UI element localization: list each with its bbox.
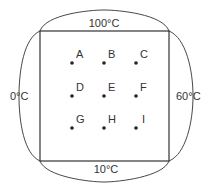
point-label: G <box>76 113 85 125</box>
point-label: I <box>142 113 145 125</box>
grid-point-e: E <box>102 81 115 98</box>
point-label: D <box>76 81 84 93</box>
grid-point-a: A <box>70 48 84 65</box>
grid-point-c: C <box>134 48 148 65</box>
point-dot <box>134 126 138 130</box>
left-temperature-label: 0°C <box>10 90 29 102</box>
bottom-temperature-label: 10°C <box>94 163 119 175</box>
point-label: F <box>140 81 147 93</box>
grid-point-g: G <box>70 113 84 130</box>
right-temperature-label: 60°C <box>176 90 201 102</box>
point-dot <box>102 94 106 98</box>
grid-point-h: H <box>102 113 116 130</box>
point-dot <box>70 126 74 130</box>
grid-point-b: B <box>102 48 115 65</box>
point-dot <box>102 126 106 130</box>
point-label: C <box>140 48 148 60</box>
heat-plate-diagram: 100°C 0°C 60°C 10°C A B C D E F G H I <box>0 0 212 188</box>
point-dot <box>134 94 138 98</box>
grid-point-d: D <box>70 81 84 98</box>
grid-point-i: I <box>134 113 145 130</box>
point-label: E <box>108 81 115 93</box>
point-dot <box>102 61 106 65</box>
top-temperature-label: 100°C <box>89 17 120 29</box>
point-label: H <box>108 113 116 125</box>
point-dot <box>70 61 74 65</box>
point-label: B <box>108 48 115 60</box>
point-dot <box>134 61 138 65</box>
point-dot <box>70 94 74 98</box>
point-label: A <box>76 48 84 60</box>
grid-point-f: F <box>134 81 147 98</box>
